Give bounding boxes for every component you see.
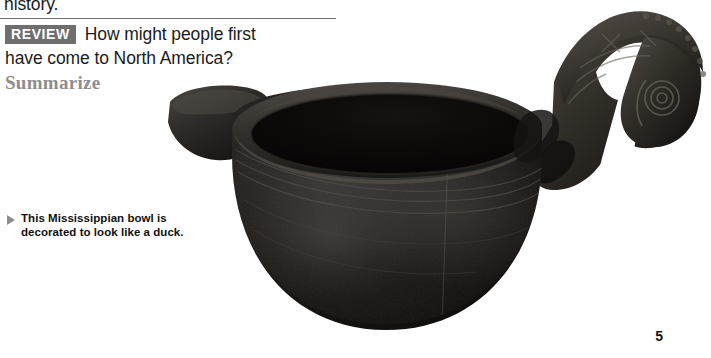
bowl-photograph [150,0,711,358]
caption-line-2: decorated to look like a duck. [21,226,184,238]
duck-head-effigy [532,11,706,190]
caption-line-1: This Mississippian bowl is [21,212,167,224]
triangle-right-icon [7,215,15,225]
review-badge: REVIEW [5,25,76,44]
page-number: 5 [655,328,663,344]
textbook-page: history. REVIEW How might people first h… [0,0,711,358]
photo-caption: This Mississippian bowl is decorated to … [7,211,237,239]
skill-label-summarize: Summarize [5,72,101,94]
caption-text: This Mississippian bowl is decorated to … [21,211,184,239]
clipped-body-text: history. [4,0,58,15]
